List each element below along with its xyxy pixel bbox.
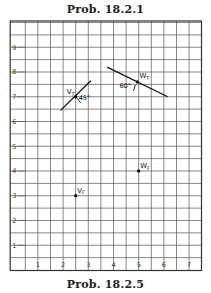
point-label-V_T: VT: [67, 88, 75, 97]
point-W_T: [136, 80, 139, 83]
y-axis-tick-label: 2: [12, 217, 16, 225]
angle-label-W_T: 60°: [119, 82, 131, 90]
problem-title-bottom: Prob. 18.2.5: [0, 278, 211, 291]
angle-label-V_T: 45°: [79, 94, 91, 102]
angle-arrow-W_T: [133, 85, 135, 91]
x-axis-tick-label: 5: [137, 261, 141, 269]
y-axis-tick-label: 7: [12, 93, 16, 101]
x-axis-tick-label: 2: [61, 261, 65, 269]
x-axis-tick-label: 6: [162, 261, 166, 269]
y-axis-tick-label: 8: [12, 68, 16, 76]
y-axis-tick-label: 9: [12, 44, 16, 52]
x-axis-tick-label: 3: [86, 261, 90, 269]
point-label-W_F: WF: [140, 162, 150, 171]
point-label-V_F: VF: [77, 187, 85, 196]
x-axis-tick-label: 1: [36, 261, 40, 269]
y-axis-tick-label: 3: [12, 192, 16, 200]
y-axis-tick-label: 1: [12, 242, 16, 250]
x-axis-tick-label: 4: [111, 261, 115, 269]
y-axis-tick-label: 4: [12, 167, 16, 175]
y-axis-tick-label: 5: [12, 143, 16, 151]
point-label-W_T: WT: [139, 72, 149, 81]
coordinate-grid-diagram: 1234567123456789VTWTVFWF45°60°: [0, 0, 211, 293]
x-axis-tick-label: 7: [187, 261, 191, 269]
y-axis-tick-label: 6: [12, 118, 16, 126]
